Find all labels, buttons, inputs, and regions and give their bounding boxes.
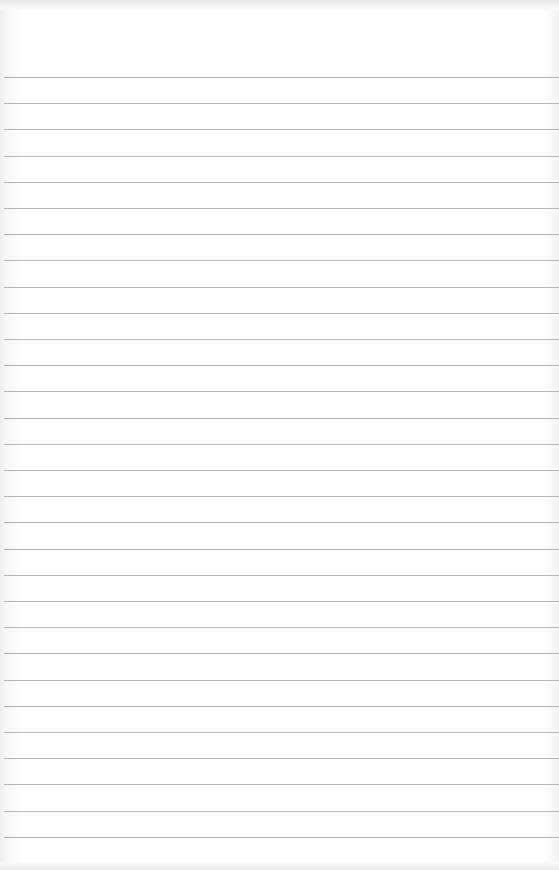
ruled-line (4, 496, 559, 497)
ruled-line (4, 339, 559, 340)
ruled-line (4, 313, 559, 314)
ruled-line (4, 208, 559, 209)
ruled-line (4, 418, 559, 419)
ruled-line (4, 837, 559, 838)
ruled-line (4, 470, 559, 471)
ruled-line (4, 811, 559, 812)
ruled-line (4, 758, 559, 759)
ruled-line (4, 77, 559, 78)
ruled-line (4, 182, 559, 183)
ruled-line (4, 522, 559, 523)
ruled-line (4, 444, 559, 445)
paper-top-edge (0, 0, 559, 10)
ruled-line (4, 234, 559, 235)
ruled-line (4, 391, 559, 392)
ruled-line (4, 680, 559, 681)
ruled-line (4, 732, 559, 733)
ruled-line (4, 549, 559, 550)
ruled-line (4, 653, 559, 654)
ruled-line (4, 103, 559, 104)
paper-bottom-edge (0, 862, 559, 870)
ruled-line (4, 156, 559, 157)
ruled-line (4, 260, 559, 261)
ruled-line (4, 575, 559, 576)
ruled-line (4, 627, 559, 628)
ruled-line (4, 706, 559, 707)
ruled-line (4, 601, 559, 602)
ruled-line (4, 784, 559, 785)
ruled-line (4, 129, 559, 130)
lined-paper-sheet (0, 0, 559, 870)
ruled-line (4, 287, 559, 288)
ruled-line (4, 365, 559, 366)
